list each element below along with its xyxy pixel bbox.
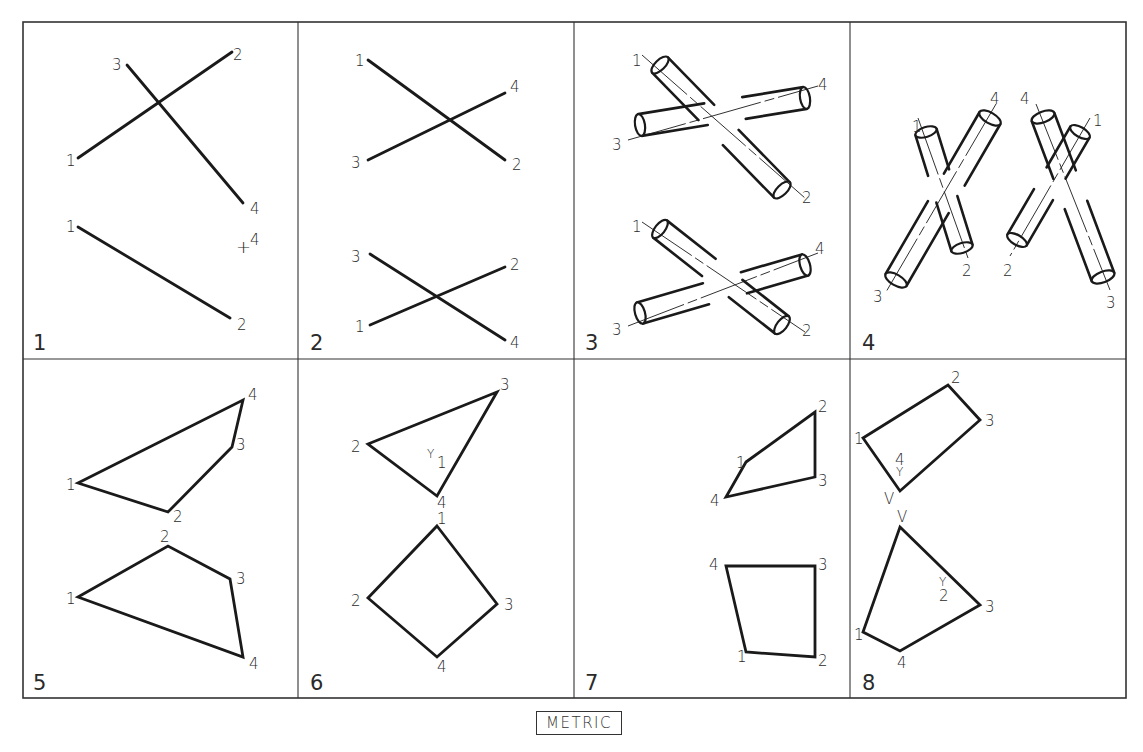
panel-1: 23141+421 <box>33 46 260 355</box>
point-label: 2 <box>233 46 243 64</box>
panel-number: 5 <box>33 671 46 695</box>
panel-4: 142341234 <box>862 90 1116 355</box>
point-label: 1 <box>912 118 922 136</box>
line-segment <box>78 227 230 318</box>
line-segment <box>368 60 505 160</box>
panel-2: 143232142 <box>310 52 522 355</box>
point-label: V <box>884 490 894 508</box>
pipe-cylinder <box>914 124 974 256</box>
point-label: 3 <box>500 376 510 394</box>
point-label: 2 <box>173 508 183 526</box>
point-label: 1 <box>66 590 76 608</box>
panel-number: 8 <box>862 671 875 695</box>
point-label: 4 <box>990 90 1000 108</box>
point-label: 3 <box>236 570 246 588</box>
plane-outline <box>78 546 243 657</box>
point-label: 1 <box>632 52 642 70</box>
point-label: 4 <box>510 334 520 352</box>
panel-8: 2314YVVY23148 <box>854 369 995 695</box>
panel-number: 1 <box>33 331 46 355</box>
point-label: 3 <box>818 472 828 490</box>
point-label: 2 <box>951 369 961 387</box>
point-label: 4 <box>709 556 719 574</box>
plane-outline <box>863 527 980 651</box>
point-label: 2 <box>351 592 361 610</box>
point-label: V <box>897 508 907 526</box>
panel-6: 32Y1412346 <box>310 376 514 695</box>
diagram-sheet: 23141+4211432321421432143231423412344312… <box>0 0 1143 752</box>
plane-outline <box>863 385 980 491</box>
pipe-cylinder <box>1005 122 1092 250</box>
panel-3: 143214323 <box>585 52 828 355</box>
point-label: 3 <box>504 596 514 614</box>
center-axis <box>628 86 818 140</box>
point-label: 3 <box>112 56 122 74</box>
panel-number: 2 <box>310 331 323 355</box>
point-label: 1 <box>355 52 365 70</box>
point-label: 4 <box>250 200 260 218</box>
point-label: 2 <box>818 652 828 670</box>
point-label: 1 <box>66 218 76 236</box>
point-label: 2 <box>802 322 812 340</box>
point-label: + <box>236 236 251 257</box>
pipe-cylinder <box>633 86 811 136</box>
point-label: 3 <box>873 288 883 306</box>
point-label: 4 <box>510 78 520 96</box>
point-label: 4 <box>250 231 260 249</box>
point-label: 4 <box>710 492 720 510</box>
point-label: 4 <box>815 240 825 258</box>
point-label: 2 <box>939 587 949 605</box>
point-label: 1 <box>437 454 447 472</box>
line-segment <box>78 52 232 158</box>
point-label: 1 <box>854 626 864 644</box>
point-label: 1 <box>632 218 642 236</box>
point-label: 2 <box>962 262 972 280</box>
panels: 23141+4211432321421432143231423412344312… <box>33 46 1116 695</box>
point-label: 4 <box>437 658 447 676</box>
point-label: 1 <box>66 476 76 494</box>
point-label: 1 <box>737 648 747 666</box>
point-label: 3 <box>612 321 622 339</box>
panel-number: 7 <box>585 671 598 695</box>
point-label: 4 <box>249 655 259 673</box>
point-label: 3 <box>985 598 995 616</box>
center-axis <box>628 253 818 326</box>
panel-5: 431223145 <box>33 386 259 695</box>
plane-outline <box>78 400 243 512</box>
metric-label: METRIC <box>546 714 612 732</box>
point-label: 1 <box>736 454 746 472</box>
point-label: 2 <box>1003 262 1013 280</box>
plane-outline <box>726 566 815 657</box>
point-label: 1 <box>355 318 365 336</box>
line-segment <box>370 267 505 325</box>
point-label: 3 <box>818 556 828 574</box>
point-label: 3 <box>612 136 622 154</box>
metric-label-box: METRIC <box>536 711 622 735</box>
point-label: 3 <box>1106 294 1116 312</box>
center-axis <box>642 55 805 198</box>
plane-outline <box>368 526 497 657</box>
line-segment <box>368 93 505 160</box>
pipe-cylinder <box>649 217 792 336</box>
panel-grid <box>23 22 1126 698</box>
point-label: 4 <box>818 76 828 94</box>
plane-outline <box>368 392 497 496</box>
point-label: 4 <box>248 386 258 404</box>
center-axis <box>918 118 968 258</box>
point-label: 2 <box>818 398 828 416</box>
point-label: 4 <box>897 654 907 672</box>
point-label: 3 <box>236 436 246 454</box>
point-label: 2 <box>802 189 812 207</box>
point-label: 2 <box>512 156 522 174</box>
point-label: 1 <box>437 510 447 528</box>
point-label: 1 <box>66 152 76 170</box>
pipe-cylinder <box>883 107 1003 290</box>
panel-number: 6 <box>310 671 323 695</box>
point-label: 3 <box>985 412 995 430</box>
panel-number: 3 <box>585 331 598 355</box>
panel-7: 213443127 <box>585 398 828 695</box>
point-label: 2 <box>351 438 361 456</box>
point-label: 4 <box>1020 90 1030 108</box>
point-label: 1 <box>854 430 864 448</box>
point-label: Y <box>427 447 435 461</box>
